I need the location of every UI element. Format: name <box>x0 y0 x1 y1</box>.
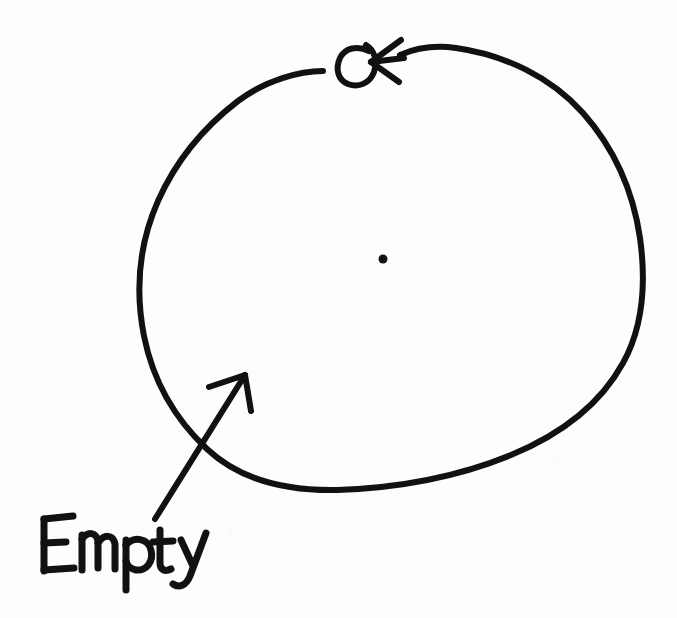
empty-label-stroke-9 <box>160 530 171 570</box>
empty-label-stroke-3 <box>44 568 74 570</box>
direction-loop-icon <box>338 45 376 85</box>
label-arrowhead-barb-right <box>245 375 251 411</box>
empty-label-stroke-1 <box>44 516 73 519</box>
empty-label-stroke-2 <box>44 542 66 543</box>
empty-label-stroke-11 <box>181 540 193 566</box>
empty-label-stroke-10 <box>153 541 173 542</box>
center-dot <box>379 255 388 264</box>
empty-label-stroke-8 <box>126 539 152 570</box>
sketch-canvas: Empty <box>0 0 677 618</box>
empty-label <box>44 516 206 590</box>
ink-layer: Empty <box>0 0 677 618</box>
